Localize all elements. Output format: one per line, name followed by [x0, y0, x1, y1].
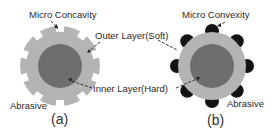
diagram-canvas: Micro Concavity Abrasive (a) Outer Layer…	[0, 0, 276, 132]
panel-a-particle	[19, 24, 101, 108]
inner-layer-label: Inner Layer(Hard)	[93, 84, 168, 94]
caption-a: (a)	[51, 112, 68, 126]
abrasive-label-b: Abrasive	[227, 99, 264, 109]
caption-b: (b)	[207, 113, 224, 127]
micro-convexity-label: Micro Convexity	[182, 10, 250, 20]
inner-layer-a	[38, 44, 82, 88]
abrasive-label-a: Abrasive	[10, 101, 47, 111]
panel-b-particle	[170, 24, 254, 108]
inner-layer-b	[190, 44, 234, 88]
outer-layer-label: Outer Layer(Soft)	[95, 31, 168, 41]
micro-concavity-label: Micro Concavity	[29, 10, 97, 20]
